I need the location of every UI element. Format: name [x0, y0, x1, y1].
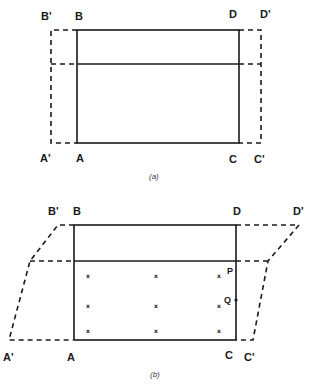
label-d-b: D [233, 205, 241, 217]
figure-b: x x x x x x x x x P Q B' B D D' A' A C C… [3, 205, 304, 379]
dashed-outline-b [9, 225, 74, 340]
solid-rect-b [74, 225, 236, 340]
deformation-diagram: B' B D D' A' A C C' (a) x x x x x x x x … [0, 0, 312, 385]
label-b-prime-b: B' [48, 205, 59, 217]
marker: x [86, 302, 90, 309]
marker: x [217, 302, 221, 309]
dashed-outline-a [51, 30, 261, 143]
marker: x [154, 272, 158, 279]
label-a-a: A [76, 152, 84, 164]
marker: x [154, 302, 158, 309]
marker: x [154, 327, 158, 334]
figure-a: B' B D D' A' A C C' (a) [40, 8, 271, 181]
label-b-b: B [73, 205, 81, 217]
caption-b: (b) [150, 370, 160, 379]
label-c-prime-a: C' [254, 153, 265, 165]
point-q-dot [234, 298, 237, 301]
label-d-prime-a: D' [260, 8, 271, 20]
label-b-a: B [75, 10, 83, 22]
dashed-outline-b-right [236, 225, 299, 340]
label-p: P [227, 266, 233, 276]
label-a-prime-a: A' [40, 152, 51, 164]
marker: x [86, 327, 90, 334]
caption-a: (a) [149, 172, 159, 181]
label-d-prime-b: D' [293, 205, 304, 217]
label-c-b: C [225, 349, 233, 361]
label-b-prime-a: B' [41, 10, 52, 22]
marker: x [86, 272, 90, 279]
label-c-prime-b: C' [244, 351, 255, 363]
marker: x [217, 327, 221, 334]
label-d-a: D [229, 8, 237, 20]
solid-rect-a [77, 30, 239, 143]
label-a-b: A [67, 351, 75, 363]
label-a-prime-b: A' [3, 351, 14, 363]
label-q: Q [224, 295, 231, 305]
label-c-a: C [229, 153, 237, 165]
marker: x [217, 272, 221, 279]
